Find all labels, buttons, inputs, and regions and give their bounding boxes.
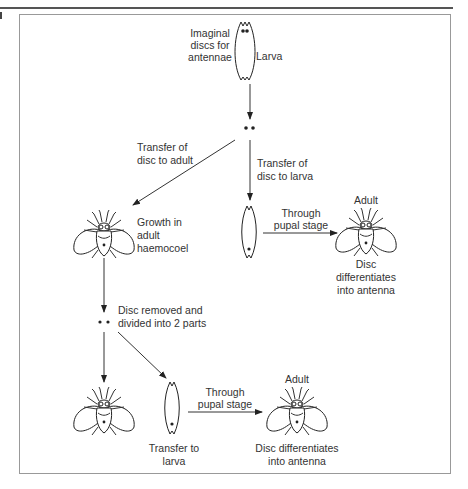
label-growth-3: haemocoel: [137, 242, 188, 254]
label-disc-removed-1: Disc removed and: [118, 304, 203, 316]
label-into-antenna-1: into antenna: [337, 284, 395, 296]
label-differentiates-2b: into antenna: [268, 455, 326, 467]
label-differentiates-2a: Disc differentiates: [255, 442, 338, 454]
label-larva: Larva: [256, 50, 282, 62]
adult-fly-icon: [336, 208, 396, 256]
larva-icon-bottom: [165, 382, 180, 434]
label-antennae: antennae: [188, 51, 232, 63]
adult-fly-icon: [74, 210, 134, 258]
arrow-icon: [118, 332, 166, 378]
larva-icon-mid: [242, 206, 257, 258]
label-imaginal: Imaginal: [190, 27, 230, 39]
label-pupal-stage-2: pupal stage: [198, 398, 252, 410]
label-pupal-stage-1: pupal stage: [274, 219, 328, 231]
adult-fly-icon: [74, 387, 134, 435]
label-transfer-larva-1: Transfer of: [257, 157, 307, 169]
label-disc-removed-2: divided into 2 parts: [118, 317, 206, 329]
label-through-1: Through: [281, 207, 320, 219]
adult-fly-icon: [267, 387, 327, 435]
label-disc-1: Disc: [356, 258, 376, 270]
label-transfer-larva-2: disc to larva: [257, 170, 313, 182]
label-larva-bottom: larva: [163, 455, 186, 467]
label-differentiates-1: differentiates: [336, 271, 396, 283]
label-transfer-adult-1: Transfer of: [137, 141, 187, 153]
label-adult-1: Adult: [354, 194, 378, 206]
disc-dots-icon: [98, 320, 109, 323]
label-discs-for: discs for: [190, 39, 230, 51]
label-growth-1: Growth in: [137, 216, 182, 228]
label-transfer-adult-2: disc to adult: [137, 154, 193, 166]
imaginal-disc-diagram: Imaginal discs for antennae Larva Transf…: [0, 0, 468, 489]
label-growth-2: adult: [137, 229, 160, 241]
label-through-2: Through: [205, 386, 244, 398]
label-adult-2: Adult: [285, 373, 309, 385]
label-transfer-to: Transfer to: [149, 442, 200, 454]
disc-dots-icon: [244, 126, 255, 130]
larva-icon-top: [235, 22, 255, 80]
